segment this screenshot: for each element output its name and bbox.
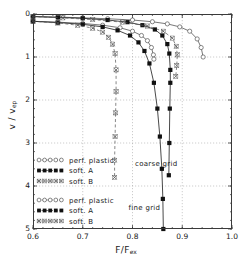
y-tick-label: 4 — [20, 181, 30, 190]
y-tick-label: 2 — [20, 95, 30, 104]
y-tick-label: 1 — [20, 52, 30, 61]
y-tick-label: 5 — [20, 224, 30, 233]
x-tick-label: 1.0 — [223, 232, 241, 241]
x-tick-label: 0.6 — [24, 232, 42, 241]
plot-area: perf. plasticsoft. Asoft. Bperf. plastic… — [33, 14, 232, 229]
y-tick-label: 0 — [20, 9, 30, 18]
y-axis-label: v / vep — [7, 85, 17, 145]
x-tick-label: 0.9 — [173, 232, 191, 241]
x-tick-label: 0.8 — [124, 232, 142, 241]
y-tick-label: 3 — [20, 138, 30, 147]
x-tick-label: 0.7 — [74, 232, 92, 241]
figure: perf. plasticsoft. Asoft. Bperf. plastic… — [0, 0, 252, 264]
plot-frame — [33, 14, 232, 229]
x-axis-label: F/Fex — [0, 245, 252, 255]
